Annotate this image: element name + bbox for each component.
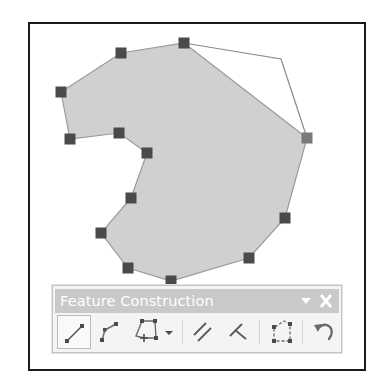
vertex-marker[interactable] bbox=[116, 48, 127, 59]
toolbar-separator bbox=[302, 320, 303, 344]
parallel-button[interactable] bbox=[187, 315, 219, 349]
toolbar-menu-dropdown[interactable] bbox=[299, 289, 313, 313]
toolbar-button-row bbox=[56, 315, 338, 351]
toolbar-title: Feature Construction bbox=[60, 289, 214, 313]
polyline-icon bbox=[94, 315, 126, 349]
vertex-marker[interactable] bbox=[114, 128, 125, 139]
vertex-marker[interactable] bbox=[123, 263, 134, 274]
polygon-add-vertex-icon bbox=[128, 315, 178, 349]
undo-icon bbox=[308, 315, 340, 349]
vertex-marker[interactable] bbox=[96, 228, 107, 239]
parallel-icon bbox=[187, 315, 219, 349]
construct-polygon-button[interactable] bbox=[128, 315, 178, 349]
vertex-marker[interactable] bbox=[179, 38, 190, 49]
close-icon bbox=[318, 289, 334, 313]
vertex-marker[interactable] bbox=[126, 193, 137, 204]
vertex-marker[interactable] bbox=[65, 134, 76, 145]
active-vertex-marker[interactable] bbox=[302, 133, 313, 144]
toolbar-separator bbox=[182, 320, 183, 344]
dropdown-triangle-icon bbox=[299, 289, 313, 313]
right-angle-button[interactable] bbox=[264, 315, 298, 349]
straight-segment-button[interactable] bbox=[57, 315, 91, 349]
polyline-segment-button[interactable] bbox=[94, 315, 126, 349]
vertex-marker[interactable] bbox=[280, 213, 291, 224]
perpendicular-icon bbox=[222, 315, 254, 349]
feature-construction-toolbar: Feature Construction bbox=[52, 285, 342, 353]
vertex-marker[interactable] bbox=[142, 148, 153, 159]
toolbar-close-button[interactable] bbox=[318, 289, 334, 313]
straight-line-icon bbox=[58, 316, 92, 350]
chevron-down-icon bbox=[165, 331, 173, 335]
polygon-feature[interactable] bbox=[61, 43, 307, 281]
vertex-marker[interactable] bbox=[56, 87, 67, 98]
perpendicular-button[interactable] bbox=[222, 315, 254, 349]
toolbar-separator bbox=[259, 320, 260, 344]
right-angle-square-icon bbox=[264, 315, 298, 349]
vertex-marker[interactable] bbox=[244, 253, 255, 264]
toolbar-title-bar[interactable]: Feature Construction bbox=[55, 289, 339, 313]
undo-button[interactable] bbox=[308, 315, 340, 349]
